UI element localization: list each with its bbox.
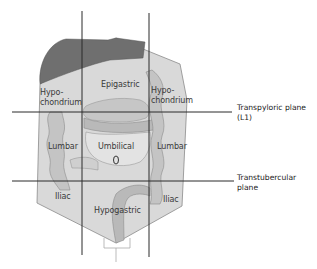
region-label-right-hypochondrium: Hypo- chondrium	[40, 88, 82, 107]
region-label-epigastric: Epigastric	[101, 80, 140, 90]
region-label-left-lumbar: Lumbar	[157, 142, 187, 152]
transpyloric-plane-label: Transpyloric plane (L1)	[237, 103, 306, 122]
region-label-left-iliac: Iliac	[163, 195, 179, 205]
abdominal-regions-diagram: Hypo- chondrium Epigastric Hypo- chondri…	[0, 0, 317, 269]
cecum-loop	[70, 157, 98, 170]
region-label-hypogastric: Hypogastric	[94, 206, 141, 216]
abdomen-illustration	[0, 0, 317, 269]
region-label-umbilical: Umbilical	[98, 142, 134, 152]
region-label-right-iliac: Iliac	[55, 192, 71, 202]
region-label-right-lumbar: Lumbar	[48, 142, 78, 152]
region-label-left-hypochondrium: Hypo- chondrium	[151, 86, 193, 105]
transtubercular-plane-label: Transtubercular plane	[237, 173, 296, 192]
